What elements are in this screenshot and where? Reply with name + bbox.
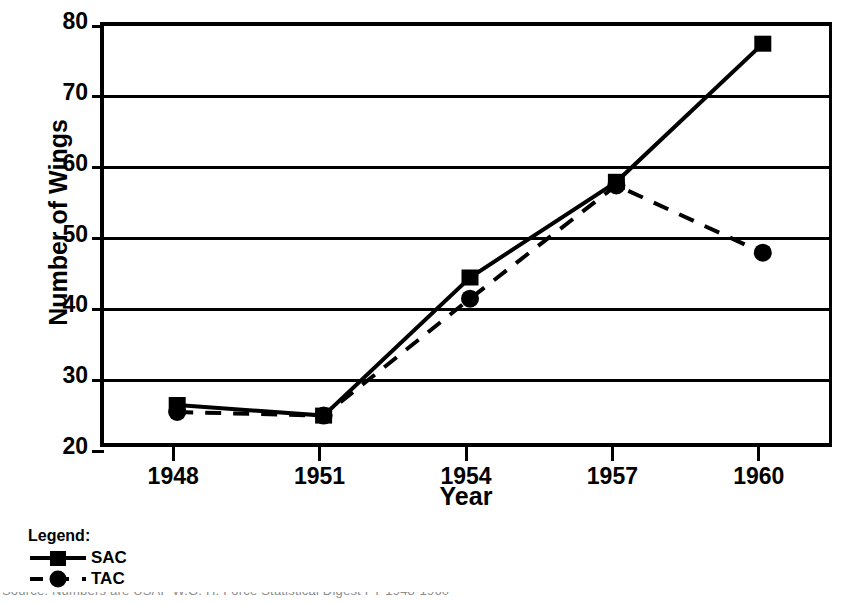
legend-label-sac: SAC <box>91 549 127 566</box>
chart-legend: Legend: SAC TAC <box>28 527 258 589</box>
y-tick-30 <box>92 379 104 382</box>
x-tick-1951 <box>318 447 321 461</box>
x-tick-1954 <box>465 447 468 461</box>
data-series-layer <box>104 26 836 451</box>
x-tick-1948 <box>172 447 175 461</box>
y-tick-70 <box>92 95 104 98</box>
legend-swatch-square-solid <box>28 548 90 568</box>
plot-area <box>100 22 832 447</box>
data-point-tac-1948 <box>168 403 186 421</box>
x-tick-1957 <box>611 447 614 461</box>
y-tick-label-50: 50 <box>42 223 88 246</box>
legend-item-sac: SAC <box>28 547 258 568</box>
data-point-tac-1954 <box>461 290 479 308</box>
y-tick-50 <box>92 237 104 240</box>
y-tick-label-20: 20 <box>42 435 88 458</box>
data-point-tac-1960 <box>754 244 772 262</box>
figure-caption: Source: Numbers are USAF W.G. H. Force S… <box>2 592 449 598</box>
legend-item-tac: TAC <box>28 568 258 589</box>
line-chart-figure: Number of Wings 20304050607080 194819511… <box>0 0 843 604</box>
legend-title: Legend: <box>28 527 258 545</box>
figure-caption-strip: Source: Numbers are USAF W.G. H. Force S… <box>0 592 843 604</box>
y-tick-80 <box>92 25 104 28</box>
y-tick-60 <box>92 166 104 169</box>
x-tick-1960 <box>757 447 760 461</box>
data-point-tac-1951 <box>315 407 333 425</box>
y-tick-label-60: 60 <box>42 152 88 175</box>
y-tick-label-70: 70 <box>42 81 88 104</box>
data-point-sac-1960 <box>754 36 771 52</box>
legend-swatch-circle-dashed <box>28 569 90 589</box>
y-tick-label-80: 80 <box>42 10 88 33</box>
y-tick-label-40: 40 <box>42 293 88 316</box>
series-line-sac <box>177 44 763 416</box>
y-tick-40 <box>92 308 104 311</box>
data-point-sac-1954 <box>462 270 479 286</box>
legend-label-tac: TAC <box>91 570 125 587</box>
y-tick-label-30: 30 <box>42 364 88 387</box>
data-point-tac-1957 <box>607 176 625 194</box>
x-axis-title: Year <box>100 482 832 511</box>
